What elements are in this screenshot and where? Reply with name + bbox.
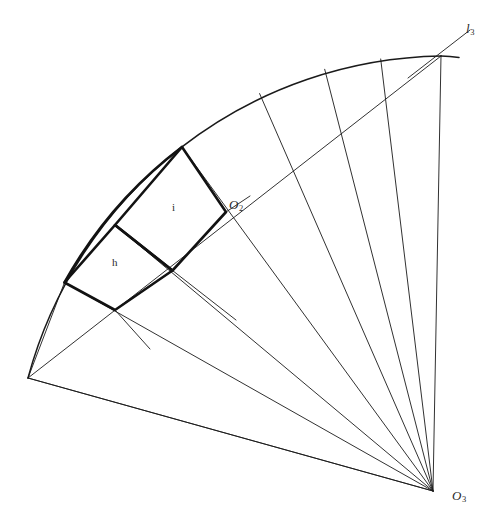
point-label-o3: O3	[452, 489, 466, 504]
fan-ray-6	[65, 283, 434, 492]
lattice-tail-lower-left	[115, 310, 150, 349]
vertical-radius	[433, 56, 441, 491]
apex-chord-1	[28, 56, 441, 378]
quad-h-outline	[65, 225, 173, 310]
point-label-o2-letter: O	[229, 197, 238, 212]
point-label-o3-letter: O	[452, 488, 461, 503]
region-label-h: h	[112, 257, 118, 268]
fan-ray-5	[115, 225, 433, 491]
fan-ray-4	[182, 147, 433, 491]
apex-chord-2	[28, 378, 433, 491]
outer-arc-overshoot	[441, 56, 459, 57]
point-label-o2-subscript: 2	[238, 203, 243, 213]
point-label-o3-subscript: 3	[461, 494, 466, 504]
figure-canvas	[0, 0, 499, 531]
point-label-o2: O2	[229, 198, 243, 213]
lattice-tail-lower-right	[173, 271, 237, 321]
line-label-l3-subscript: 3	[470, 27, 475, 37]
quad-i-outline	[115, 147, 226, 271]
region-label-i: i	[172, 202, 175, 213]
line-l3	[408, 30, 470, 78]
fan-ray-1	[381, 59, 433, 491]
geometry-figure: h i O2 O3 l3	[0, 0, 499, 531]
line-label-l3: l3	[466, 22, 474, 37]
